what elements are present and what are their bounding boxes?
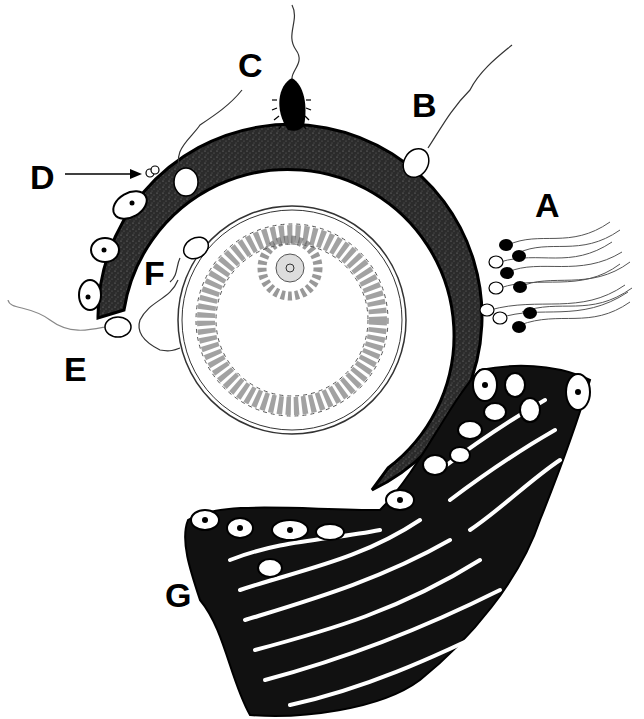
label-f: F <box>144 256 165 290</box>
follicle-oocyte <box>178 206 406 434</box>
sperm-c <box>272 5 311 131</box>
sperm-group-a <box>480 222 632 333</box>
label-e: E <box>64 352 87 386</box>
label-a: A <box>535 188 560 222</box>
label-d: D <box>30 160 55 194</box>
label-c: C <box>238 48 263 82</box>
label-b: B <box>412 88 437 122</box>
sperm-oocyte-diagram <box>0 0 644 719</box>
label-g: G <box>165 578 191 612</box>
